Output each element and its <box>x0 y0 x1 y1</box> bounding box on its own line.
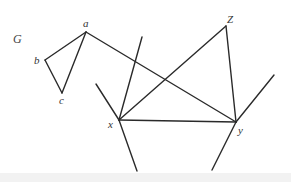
half-edge-x-down <box>119 120 137 171</box>
half-edge-x-up <box>119 37 142 120</box>
graph-name-label: G <box>13 32 22 46</box>
vertex-label-b: b <box>34 54 40 66</box>
vertex-label-y: y <box>237 124 243 136</box>
vertex-labels: G a b c x y Z <box>13 13 243 136</box>
edge-b-c <box>45 60 62 93</box>
vertex-label-a: a <box>83 17 89 29</box>
edges <box>45 26 274 171</box>
vertex-label-z: Z <box>227 13 234 25</box>
vertex-label-c: c <box>59 94 64 106</box>
vertex-label-x: x <box>107 118 113 130</box>
edge-c-a <box>62 32 86 93</box>
half-edge-y-upright <box>236 75 274 122</box>
half-edge-x-upleft <box>96 84 119 120</box>
bottom-band <box>0 173 291 182</box>
edge-x-y <box>119 120 236 122</box>
graph-diagram: G a b c x y Z <box>0 0 291 182</box>
half-edge-y-down <box>212 122 236 170</box>
edge-a-y <box>86 32 236 122</box>
edge-z-y <box>226 26 236 122</box>
